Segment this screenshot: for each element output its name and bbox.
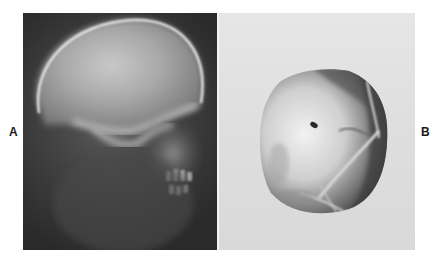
skull-xray-image <box>23 13 217 250</box>
panel-label-b: B <box>421 126 430 138</box>
panel-b-circular-xray <box>219 13 415 250</box>
panel-a-skull-xray <box>23 13 217 250</box>
circular-xray-image <box>219 13 415 250</box>
panel-label-a: A <box>9 126 18 138</box>
